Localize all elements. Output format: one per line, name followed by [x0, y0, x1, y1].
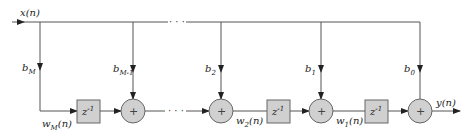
input-label: x(n) [20, 7, 40, 18]
fir-transposed-diagram: · · · x(n) bM wM(n) z-1 bM-1 + · · · b2 … [0, 0, 472, 135]
svg-text:+: + [217, 105, 226, 118]
adder-1: + [121, 99, 145, 123]
svg-text:+: + [317, 105, 326, 118]
output-label: y(n) [435, 97, 456, 108]
state-w1-label: w1(n) [336, 115, 363, 129]
coef-b2-label: b2 [205, 63, 216, 77]
svg-text:+: + [416, 105, 425, 118]
coef-b1-label: b1 [305, 63, 316, 77]
delay-block-3: z-1 [365, 100, 388, 123]
bottom-ellipsis: · · · [168, 105, 184, 116]
coef-bM-label: bM [22, 62, 36, 76]
adder-3: + [309, 99, 333, 123]
adder-2: + [209, 99, 233, 123]
coef-b0-label: b0 [404, 63, 415, 77]
delay-block-2: z-1 [267, 100, 290, 123]
svg-text:+: + [129, 105, 138, 118]
coef-bM-1-label: bM-1 [113, 63, 133, 77]
delay-block-1: z-1 [77, 100, 100, 123]
adder-4: + [408, 99, 432, 123]
state-wM-label: wM(n) [42, 118, 72, 132]
top-ellipsis: · · · [169, 16, 185, 27]
branch-bM [40, 22, 77, 111]
state-w2-label: w2(n) [236, 115, 263, 129]
